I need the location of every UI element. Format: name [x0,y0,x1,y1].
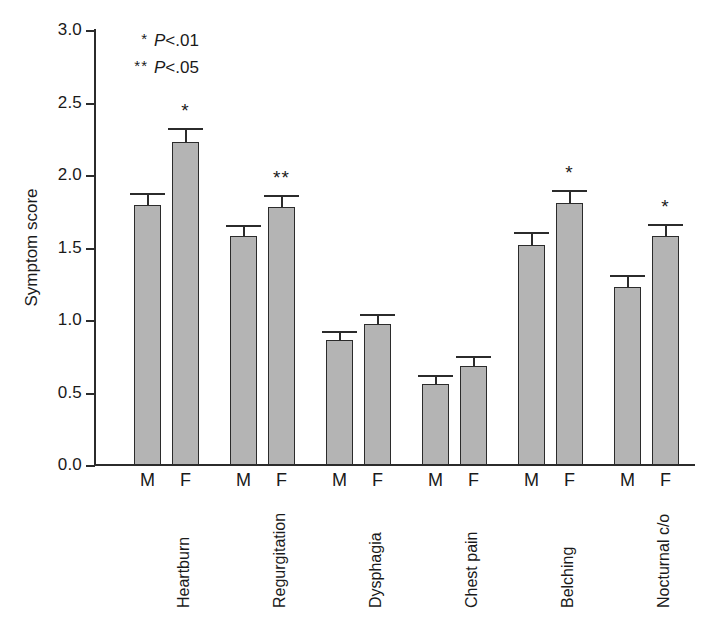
error-bar-stem [665,226,667,236]
error-bar-cap [418,375,453,377]
y-axis-title-holder: Symptom score [22,30,42,465]
error-bar-stem [185,130,187,142]
sex-label-f: F [372,470,383,491]
sex-label-f: F [276,470,287,491]
bar-nocturnal-c-o-f [652,236,679,465]
y-tick-label: 0.0 [58,455,82,475]
category-label-nocturnal-c-o: Nocturnal c/o [655,514,673,608]
error-bar-cap [130,193,165,195]
error-bar-cap [264,195,299,197]
y-tick-label: 1.5 [58,238,82,258]
error-bar-cap [610,275,645,277]
plot-area: 0.00.51.01.52.02.53.0***** [95,30,695,465]
sex-label-m: M [332,470,347,491]
y-tick-label: 2.0 [58,165,82,185]
bar-regurgitation-f [268,207,295,465]
bar-belching-m [518,245,545,465]
significance-marker: * [661,202,669,212]
sex-label-f: F [564,470,575,491]
significance-marker: * [565,168,573,178]
error-bar-cap [514,232,549,234]
category-label-heartburn: Heartburn [175,537,193,608]
y-tick-mark [86,175,95,177]
y-tick-mark [86,320,95,322]
y-tick-label: 0.5 [58,383,82,403]
y-tick-mark [86,393,95,395]
error-bar-cap [456,356,491,358]
error-bar-stem [627,277,629,287]
sex-label-f: F [660,470,671,491]
y-tick-label: 3.0 [58,20,82,40]
bar-regurgitation-m [230,236,257,465]
error-bar-cap [552,190,587,192]
category-label-regurgitation: Regurgitation [271,513,289,608]
sex-label-m: M [524,470,539,491]
category-label-belching: Belching [559,547,577,608]
y-tick-mark [86,103,95,105]
sex-label-f: F [180,470,191,491]
error-bar-stem [569,192,571,202]
y-tick-label: 2.5 [58,93,82,113]
error-bar-cap [648,224,683,226]
category-label-dysphagia: Dysphagia [367,532,385,608]
error-bar-cap [168,128,203,130]
y-tick-mark [86,30,95,32]
bar-nocturnal-c-o-m [614,287,641,465]
error-bar-stem [473,358,475,367]
sex-label-m: M [140,470,155,491]
y-tick-mark [86,248,95,250]
y-tick-label: 1.0 [58,310,82,330]
error-bar-cap [322,331,357,333]
bar-belching-f [556,203,583,465]
error-bar-stem [281,197,283,207]
error-bar-stem [435,377,437,384]
bar-chest-pain-m [422,384,449,465]
error-bar-stem [243,227,245,236]
bar-heartburn-m [134,205,161,465]
bar-dysphagia-f [364,324,391,465]
error-bar-stem [377,316,379,325]
y-tick-mark [86,465,95,467]
bar-chest-pain-f [460,366,487,465]
sex-label-m: M [428,470,443,491]
sex-label-f: F [468,470,479,491]
bar-chart-figure: *P<.01 **P<.05 Symptom score 0.00.51.01.… [0,0,706,620]
category-label-chest-pain: Chest pain [463,532,481,609]
y-axis-title: Symptom score [22,30,42,465]
error-bar-stem [147,195,149,205]
sex-label-m: M [620,470,635,491]
significance-marker: * [181,106,189,116]
error-bar-cap [360,314,395,316]
error-bar-stem [531,234,533,244]
error-bar-stem [339,333,341,340]
error-bar-cap [226,225,261,227]
significance-marker: ** [273,173,290,183]
sex-label-m: M [236,470,251,491]
bar-dysphagia-m [326,340,353,465]
bar-heartburn-f [172,142,199,465]
